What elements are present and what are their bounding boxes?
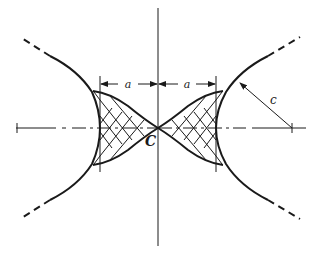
label-a-left: a xyxy=(125,78,132,91)
radius-c-arrow xyxy=(240,83,292,128)
label-center-c: C xyxy=(145,133,156,149)
label-c-radius: c xyxy=(270,93,277,107)
diagram: a a xyxy=(0,0,324,256)
horizontal-axis xyxy=(16,123,306,133)
label-a-right: a xyxy=(184,78,191,91)
